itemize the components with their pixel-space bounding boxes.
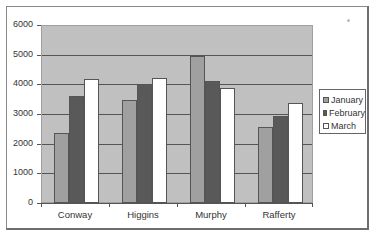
bar-higgins-january: [122, 100, 137, 203]
legend-swatch-january: [323, 97, 329, 103]
legend-swatch-march: [323, 123, 329, 129]
legend-label: March: [331, 121, 356, 131]
y-tick-label: 4000: [3, 78, 33, 88]
y-tick-mark: [37, 55, 41, 56]
legend: January February March: [319, 89, 366, 134]
x-tick-label: Rafferty: [245, 209, 313, 220]
bar-higgins-march: [152, 78, 167, 203]
gridline: [42, 84, 312, 85]
y-tick-label: 0: [3, 197, 33, 207]
legend-item-march: March: [323, 119, 365, 132]
x-tick-mark: [312, 203, 313, 207]
x-tick-label: Conway: [41, 209, 109, 220]
bar-rafferty-february: [273, 116, 288, 203]
legend-label: January: [331, 95, 363, 105]
bar-conway-january: [54, 133, 69, 203]
bar-murphy-february: [205, 81, 220, 203]
x-tick-mark: [245, 203, 246, 207]
y-tick-mark: [37, 84, 41, 85]
y-tick-label: 3000: [3, 108, 33, 118]
x-tick-label: Murphy: [177, 209, 245, 220]
y-tick-label: 2000: [3, 138, 33, 148]
x-tick-mark: [109, 203, 110, 207]
decorative-dot: [347, 19, 350, 22]
legend-swatch-february: [323, 110, 327, 116]
legend-label: February: [329, 108, 365, 118]
gridline: [42, 55, 312, 56]
x-tick-mark: [177, 203, 178, 207]
bar-conway-february: [69, 96, 84, 203]
y-tick-label: 6000: [3, 19, 33, 29]
x-tick-mark: [41, 203, 42, 207]
plot-area: [41, 25, 313, 203]
bar-rafferty-march: [288, 103, 303, 203]
bar-higgins-february: [137, 84, 152, 203]
bar-murphy-march: [220, 88, 235, 203]
legend-item-january: January: [323, 93, 365, 106]
x-tick-label: Higgins: [109, 209, 177, 220]
legend-item-february: February: [323, 106, 365, 119]
y-tick-label: 5000: [3, 49, 33, 59]
y-tick-mark: [37, 114, 41, 115]
y-tick-mark: [37, 25, 41, 26]
bar-conway-march: [84, 79, 99, 203]
y-tick-label: 1000: [3, 167, 33, 177]
bar-murphy-january: [190, 56, 205, 203]
y-tick-mark: [37, 173, 41, 174]
y-tick-mark: [37, 144, 41, 145]
bar-rafferty-january: [258, 127, 273, 203]
